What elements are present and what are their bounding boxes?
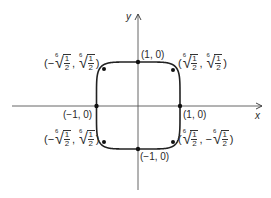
x-axis-label: x (255, 110, 260, 121)
label-corner-top-right: (6√12, 6√12) (178, 54, 227, 72)
y-axis-label: y (126, 11, 131, 22)
label-corner-bottom-left: (−6√12, 6√12) (44, 130, 99, 148)
label-corner-top-left: (−6√12, 6√12) (44, 54, 99, 72)
point-corner-top-right (171, 68, 175, 72)
sixth-root: 6√12 (213, 130, 229, 148)
label-right-point: (1, 0) (183, 110, 206, 120)
point-corner-bottom-left (102, 140, 106, 144)
sixth-root: 6√12 (207, 54, 223, 72)
point-corner-top-left (102, 67, 106, 71)
label-bottom-point: (−1, 0) (140, 152, 169, 162)
point-right (178, 104, 182, 108)
diagram-canvas (0, 0, 271, 198)
sixth-root: 6√12 (55, 130, 71, 148)
label-corner-bottom-right: (6√12, −6√12) (178, 130, 233, 148)
point-corner-bottom-right (171, 140, 175, 144)
label-left-point: (−1, 0) (63, 110, 92, 120)
point-top (136, 60, 140, 64)
sixth-root: 6√12 (79, 54, 95, 72)
point-left (94, 104, 98, 108)
sixth-root: 6√12 (183, 130, 199, 148)
label-top-point: (1, 0) (141, 50, 164, 60)
sixth-root: 6√12 (79, 130, 95, 148)
sixth-root: 6√12 (55, 54, 71, 72)
sixth-root: 6√12 (183, 54, 199, 72)
